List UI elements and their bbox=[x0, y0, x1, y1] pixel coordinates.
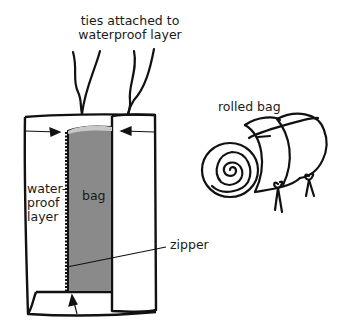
zipper-label: zipper bbox=[170, 238, 209, 252]
sleeping-bag bbox=[68, 126, 112, 292]
bag-label: bag bbox=[82, 189, 106, 203]
ties-label: ties attached to waterproof layer bbox=[70, 14, 190, 42]
ties-label-line-1: ties attached to bbox=[70, 14, 190, 28]
tie-2 bbox=[82, 51, 100, 114]
rolled-bag-label: rolled bag bbox=[218, 100, 281, 114]
waterproof-line-1: water- bbox=[27, 182, 66, 196]
diagram-canvas bbox=[0, 0, 353, 329]
waterproof-layer-label: water- proof layer bbox=[27, 182, 66, 224]
rolled-bag bbox=[202, 114, 327, 212]
waterproof-line-2: proof bbox=[27, 196, 66, 210]
waterproof-line-3: layer bbox=[27, 210, 66, 224]
tie-1 bbox=[73, 52, 82, 114]
ties-label-line-2: waterproof layer bbox=[70, 28, 190, 42]
